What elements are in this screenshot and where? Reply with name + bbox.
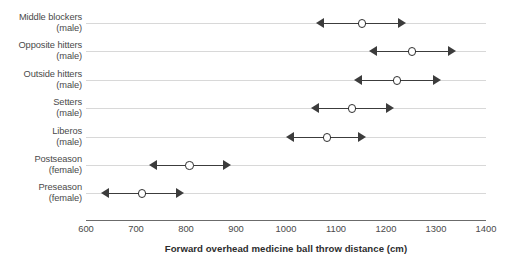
- arrow-left-icon: [149, 160, 157, 170]
- y-label-middle-blockers: Middle blockers (male): [0, 12, 82, 33]
- y-label-group: (male): [0, 80, 82, 91]
- y-label-name: Middle blockers: [0, 12, 82, 23]
- gridline-middle-blockers: [86, 23, 486, 24]
- error-bar-preseason: [101, 187, 184, 199]
- data-point-liberos: [323, 133, 331, 141]
- data-point-middle-blockers: [358, 19, 366, 27]
- x-tick-600: 600: [78, 223, 94, 234]
- arrow-left-icon: [101, 188, 109, 198]
- arrow-right-icon: [386, 103, 394, 113]
- x-tick-1100: 1100: [326, 223, 346, 234]
- y-label-opposite-hitters: Opposite hitters (male): [0, 40, 82, 61]
- x-tick-900: 900: [228, 223, 244, 234]
- plot-area: [86, 0, 486, 210]
- x-axis-title: Forward overhead medicine ball throw dis…: [86, 243, 486, 254]
- data-point-opposite-hitters: [408, 47, 416, 55]
- error-bar-middle-blockers: [316, 17, 406, 29]
- data-point-setters: [348, 104, 356, 112]
- error-bar-outside-hitters: [354, 74, 442, 86]
- y-label-group: (male): [0, 137, 82, 148]
- y-label-group: (female): [0, 165, 82, 176]
- x-axis-tick-labels: 60070080090010001100120013001400: [86, 223, 486, 237]
- arrow-right-icon: [448, 46, 456, 56]
- y-label-group: (male): [0, 108, 82, 119]
- x-tick-1300: 1300: [426, 223, 447, 234]
- arrow-left-icon: [354, 75, 362, 85]
- y-label-name: Postseason: [0, 154, 82, 165]
- y-label-preseason: Preseason (female): [0, 182, 82, 203]
- error-bar-liberos: [286, 131, 366, 143]
- arrow-right-icon: [433, 75, 441, 85]
- arrow-left-icon: [316, 18, 324, 28]
- y-label-name: Setters: [0, 97, 82, 108]
- arrow-right-icon: [358, 132, 366, 142]
- x-axis-line: [86, 220, 486, 221]
- x-tick-1000: 1000: [276, 223, 297, 234]
- y-label-name: Preseason: [0, 182, 82, 193]
- error-bar-postseason: [149, 159, 232, 171]
- arrow-right-icon: [398, 18, 406, 28]
- arrow-right-icon: [176, 188, 184, 198]
- error-bar-opposite-hitters: [369, 45, 457, 57]
- arrow-left-icon: [311, 103, 319, 113]
- x-tick-700: 700: [128, 223, 144, 234]
- y-label-liberos: Liberos (male): [0, 126, 82, 147]
- arrow-left-icon: [286, 132, 294, 142]
- y-label-name: Liberos: [0, 126, 82, 137]
- y-label-outside-hitters: Outside hitters (male): [0, 69, 82, 90]
- y-axis-category-labels: Middle blockers (male) Opposite hitters …: [0, 0, 86, 210]
- error-bar-setters: [311, 102, 394, 114]
- y-label-group: (male): [0, 23, 82, 34]
- data-point-preseason: [138, 189, 146, 197]
- y-label-group: (female): [0, 193, 82, 204]
- data-point-postseason: [185, 161, 193, 169]
- chart-figure: Middle blockers (male) Opposite hitters …: [0, 0, 511, 266]
- arrow-right-icon: [223, 160, 231, 170]
- y-label-group: (male): [0, 51, 82, 62]
- y-label-name: Opposite hitters: [0, 40, 82, 51]
- gridline-setters: [86, 108, 486, 109]
- y-label-postseason: Postseason (female): [0, 154, 82, 175]
- y-label-setters: Setters (male): [0, 97, 82, 118]
- gridline-postseason: [86, 165, 486, 166]
- data-point-outside-hitters: [393, 76, 401, 84]
- y-label-name: Outside hitters: [0, 69, 82, 80]
- x-tick-800: 800: [178, 223, 194, 234]
- x-tick-1200: 1200: [376, 223, 397, 234]
- x-tick-1400: 1400: [476, 223, 497, 234]
- arrow-left-icon: [369, 46, 377, 56]
